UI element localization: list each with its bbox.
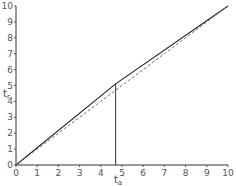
y-tick-label: 10: [2, 1, 14, 11]
y-tick-label: 0: [7, 160, 13, 170]
series-lines: [16, 6, 228, 165]
x-tick-label: 4: [98, 168, 104, 178]
y-tick-label: 2: [7, 128, 13, 138]
x-tick-label: 7: [162, 168, 168, 178]
y-tick-label: 6: [7, 65, 13, 75]
y-tick-label: 9: [7, 17, 13, 27]
y-tick-label: 7: [7, 49, 13, 59]
y-tick-label: 5: [7, 81, 13, 91]
x-tick-label: 0: [13, 168, 19, 178]
x-tick-label: 5: [119, 168, 125, 178]
x-tick-label: 2: [56, 168, 62, 178]
x-tick-label: 9: [204, 168, 210, 178]
x-tick-label: 6: [140, 168, 146, 178]
y-tick-label: 1: [7, 144, 13, 154]
y-tick-label: 8: [7, 33, 13, 43]
x-tick-label: 10: [222, 168, 234, 178]
x-tick-label: 8: [183, 168, 189, 178]
tick-labels: 012345678910012345678910: [2, 1, 234, 178]
x-tick-label: 1: [34, 168, 40, 178]
chart: 012345678910012345678910 ta tr: [0, 0, 236, 186]
y-tick-label: 3: [7, 112, 13, 122]
dashed-diagonal-line: [16, 6, 228, 165]
x-tick-label: 3: [77, 168, 83, 178]
